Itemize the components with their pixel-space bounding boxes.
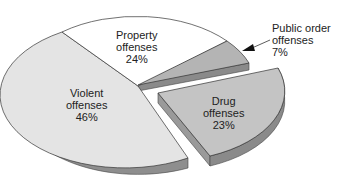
violent-name2: offenses: [66, 99, 107, 111]
drug-name1: Drug: [203, 95, 244, 107]
property-pct: 24%: [116, 53, 158, 65]
public-order-label: Public order offenses 7%: [272, 22, 331, 58]
violent-name1: Violent: [66, 87, 107, 99]
public-order-arrow-head: [242, 44, 255, 51]
drug-name2: offenses: [203, 107, 244, 119]
drug-label: Drug offenses 23%: [203, 95, 244, 131]
property-name1: Property: [116, 29, 158, 41]
property-name2: offenses: [116, 41, 158, 53]
drug-pct: 23%: [203, 119, 244, 131]
public-order-name2: offenses: [272, 34, 331, 46]
property-label: Property offenses 24%: [116, 29, 158, 65]
public-order-arrow-line: [252, 40, 270, 48]
public-order-name1: Public order: [272, 22, 331, 34]
violent-label: Violent offenses 46%: [66, 87, 107, 123]
public-order-pct: 7%: [272, 46, 331, 58]
violent-pct: 46%: [66, 111, 107, 123]
